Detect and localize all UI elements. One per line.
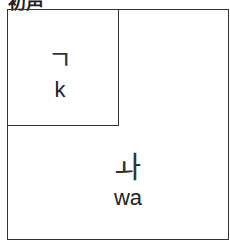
vowel-romanization: wa — [100, 187, 156, 209]
initial-romanization: k — [40, 79, 80, 101]
vowel-jamo: ㅘ — [100, 152, 156, 182]
initial-jamo: ㄱ — [40, 47, 80, 73]
